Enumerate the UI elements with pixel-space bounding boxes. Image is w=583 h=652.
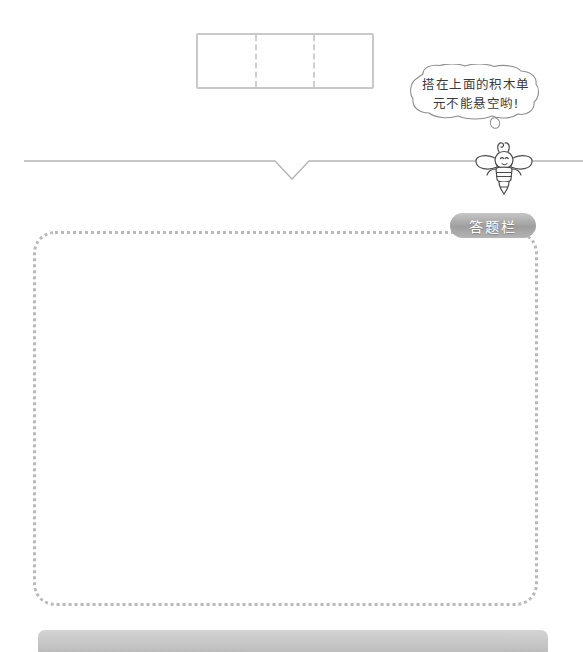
hint-text-line-2: 元不能悬空哟!: [422, 94, 530, 113]
bottom-bar: [38, 630, 548, 652]
answer-panel-area: [33, 231, 538, 606]
answer-strip-cell-3[interactable]: [313, 35, 372, 87]
top-answer-strip[interactable]: [196, 33, 374, 89]
answer-panel-tab: 答题栏: [450, 213, 536, 238]
answer-strip-cell-1[interactable]: [198, 35, 255, 87]
hint-text-line-1: 搭在上面的积木单: [422, 75, 530, 94]
answer-strip-cell-2[interactable]: [255, 35, 314, 87]
hint-thought-bubble: 搭在上面的积木单 元不能悬空哟!: [409, 64, 541, 132]
bee-icon: [472, 138, 536, 198]
hint-text: 搭在上面的积木单 元不能悬空哟!: [422, 75, 530, 113]
